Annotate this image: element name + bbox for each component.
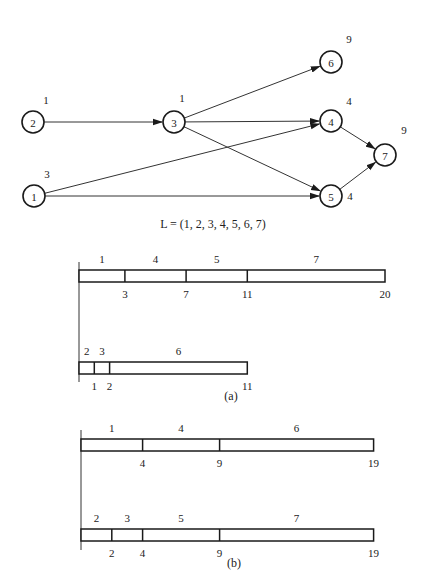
time-label: 7 bbox=[183, 288, 189, 300]
task-label: 2 bbox=[94, 512, 100, 524]
task-label: 1 bbox=[109, 422, 115, 434]
edge-3-to-4 bbox=[185, 121, 319, 122]
time-label: 1 bbox=[92, 380, 98, 392]
node-weight: 4 bbox=[347, 190, 353, 202]
task-graph-figure: 13213144546979 L = (1, 2, 3, 4, 5, 6, 7)… bbox=[0, 0, 421, 584]
node-label: 4 bbox=[328, 116, 334, 128]
edge-4-to-7 bbox=[340, 127, 375, 149]
node-label: 2 bbox=[30, 117, 36, 129]
task-node-6: 69 bbox=[320, 33, 352, 73]
time-label: 2 bbox=[107, 380, 113, 392]
node-weight: 9 bbox=[401, 124, 407, 136]
task-label: 5 bbox=[178, 512, 184, 524]
schedule-b-gantt: 1449619223459719 bbox=[81, 422, 380, 559]
task-label: 5 bbox=[214, 253, 220, 265]
processor-bar bbox=[81, 439, 374, 451]
graph-nodes: 13213144546979 bbox=[22, 33, 407, 207]
task-node-5: 54 bbox=[320, 185, 353, 207]
time-label: 3 bbox=[122, 288, 128, 300]
task-node-2: 21 bbox=[22, 94, 49, 133]
schedule-a-caption: (a) bbox=[224, 389, 237, 403]
node-weight: 1 bbox=[43, 94, 49, 106]
edge-3-to-5 bbox=[184, 127, 320, 191]
time-label: 20 bbox=[380, 288, 392, 300]
node-weight: 9 bbox=[346, 33, 352, 45]
edge-5-to-7 bbox=[340, 162, 376, 189]
processor-1-row: 1347511720 bbox=[79, 253, 391, 300]
task-node-4: 44 bbox=[320, 95, 352, 132]
task-label: 3 bbox=[124, 512, 130, 524]
time-label: 4 bbox=[140, 457, 146, 469]
schedule-a-gantt: 13475117202132611 bbox=[79, 253, 391, 392]
task-label: 4 bbox=[153, 253, 159, 265]
processor-2-row: 2132611 bbox=[79, 345, 253, 392]
edge-1-to-4 bbox=[45, 124, 320, 193]
node-label: 3 bbox=[171, 117, 177, 129]
time-label: 19 bbox=[368, 457, 380, 469]
task-label: 7 bbox=[294, 512, 300, 524]
task-label: 1 bbox=[99, 253, 105, 265]
task-label: 6 bbox=[294, 422, 300, 434]
time-label: 19 bbox=[368, 547, 380, 559]
node-label: 7 bbox=[382, 150, 388, 162]
processor-1-row: 1449619 bbox=[81, 422, 380, 469]
task-label: 7 bbox=[313, 253, 319, 265]
processor-bar bbox=[79, 362, 247, 374]
node-label: 5 bbox=[328, 191, 334, 203]
time-label: 4 bbox=[140, 547, 146, 559]
time-label: 11 bbox=[242, 380, 253, 392]
task-node-3: 31 bbox=[163, 92, 185, 133]
task-label: 2 bbox=[84, 345, 90, 357]
task-node-7: 79 bbox=[374, 124, 407, 166]
time-label: 9 bbox=[217, 547, 223, 559]
task-node-1: 13 bbox=[23, 168, 50, 207]
node-weight: 4 bbox=[346, 95, 352, 107]
node-label: 6 bbox=[328, 57, 334, 69]
processor-2-row: 223459719 bbox=[81, 512, 380, 559]
time-label: 2 bbox=[109, 547, 115, 559]
time-label: 9 bbox=[217, 457, 223, 469]
node-weight: 1 bbox=[179, 92, 185, 104]
edge-3-to-6 bbox=[184, 66, 320, 118]
priority-list-caption: L = (1, 2, 3, 4, 5, 6, 7) bbox=[160, 217, 266, 231]
task-label: 4 bbox=[178, 422, 184, 434]
node-weight: 3 bbox=[44, 168, 50, 180]
task-label: 6 bbox=[176, 345, 182, 357]
node-label: 1 bbox=[31, 191, 37, 203]
processor-bar bbox=[81, 529, 374, 541]
task-label: 3 bbox=[99, 345, 105, 357]
schedule-b-caption: (b) bbox=[227, 556, 241, 570]
time-label: 11 bbox=[242, 288, 253, 300]
